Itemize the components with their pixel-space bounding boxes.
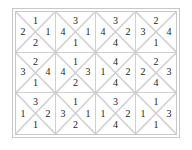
tile-right-value: 2 [123, 109, 133, 119]
tile-top-value: 4 [111, 57, 121, 67]
tile-r1-c0[interactable]: 2 3 4 1 [16, 53, 56, 94]
tile-bottom-value: 1 [151, 38, 161, 48]
tile-bottom-value: 1 [71, 38, 81, 48]
tile-left-value: 2 [18, 27, 28, 37]
tile-bottom-value: 4 [111, 120, 121, 130]
tile-bottom-value: 1 [31, 120, 41, 130]
tile-right-value: 2 [123, 67, 133, 77]
tile-r2-c2[interactable]: 3 1 2 4 [96, 93, 136, 134]
tile-r1-c1[interactable]: 1 4 3 2 [56, 53, 96, 94]
puzzle-grid: 1 2 1 2 3 4 1 1 3 4 2 4 2 3 4 1 2 3 4 1 … [15, 11, 177, 135]
tile-right-value: 3 [164, 109, 174, 119]
tile-right-value: 3 [83, 67, 93, 77]
tile-r0-c1[interactable]: 3 4 1 1 [56, 12, 96, 53]
tile-top-value: 3 [111, 16, 121, 26]
tile-right-value: 2 [43, 109, 53, 119]
tile-r1-c3[interactable]: 2 2 3 4 [136, 53, 176, 94]
tile-r0-c0[interactable]: 1 2 1 2 [16, 12, 56, 53]
tile-bottom-value: 4 [151, 78, 161, 88]
tile-left-value: 1 [98, 109, 108, 119]
tile-left-value: 4 [58, 27, 68, 37]
tile-right-value: 4 [164, 27, 174, 37]
tile-bottom-value: 1 [151, 120, 161, 130]
tile-right-value: 1 [83, 109, 93, 119]
tile-left-value: 1 [98, 67, 108, 77]
tile-right-value: 1 [83, 27, 93, 37]
tile-left-value: 4 [58, 67, 68, 77]
tile-r2-c1[interactable]: 1 3 1 2 [56, 93, 96, 134]
tile-right-value: 3 [164, 67, 174, 77]
tile-r2-c3[interactable]: 1 1 3 1 [136, 93, 176, 134]
tile-top-value: 3 [31, 97, 41, 107]
tile-left-value: 2 [138, 67, 148, 77]
tile-bottom-value: 2 [71, 78, 81, 88]
tile-top-value: 1 [71, 57, 81, 67]
tile-r2-c0[interactable]: 3 1 2 1 [16, 93, 56, 134]
tile-bottom-value: 2 [71, 120, 81, 130]
tile-right-value: 1 [43, 27, 53, 37]
tile-bottom-value: 1 [31, 78, 41, 88]
tile-top-value: 1 [31, 16, 41, 26]
tile-right-value: 2 [123, 27, 133, 37]
tile-top-value: 3 [71, 16, 81, 26]
tile-bottom-value: 2 [31, 38, 41, 48]
tile-left-value: 3 [18, 67, 28, 77]
tile-r0-c3[interactable]: 2 3 4 1 [136, 12, 176, 53]
tile-left-value: 3 [138, 27, 148, 37]
tile-r0-c2[interactable]: 3 4 2 4 [96, 12, 136, 53]
tile-top-value: 1 [151, 97, 161, 107]
tile-top-value: 3 [111, 97, 121, 107]
tile-left-value: 1 [18, 109, 28, 119]
tile-top-value: 2 [31, 57, 41, 67]
tile-left-value: 1 [138, 109, 148, 119]
tile-right-value: 4 [43, 67, 53, 77]
tile-top-value: 2 [151, 16, 161, 26]
tile-top-value: 1 [71, 97, 81, 107]
tile-left-value: 4 [98, 27, 108, 37]
tile-top-value: 2 [151, 57, 161, 67]
tile-r1-c2[interactable]: 4 1 2 4 [96, 53, 136, 94]
tile-bottom-value: 4 [111, 78, 121, 88]
tile-bottom-value: 4 [111, 38, 121, 48]
tile-left-value: 3 [58, 109, 68, 119]
